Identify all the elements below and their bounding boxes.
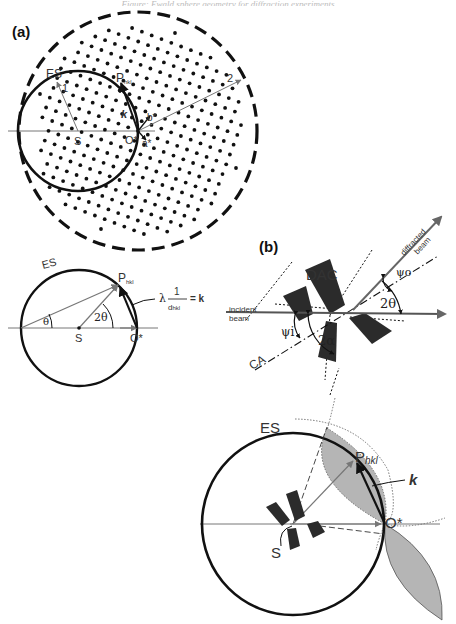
two-theta-label-b: 2θ [380, 296, 396, 311]
diffracted-beam-arrow [353, 217, 441, 310]
p-hkl-label-2: Phkl [118, 271, 134, 285]
ray-lower [320, 526, 384, 534]
s-label-c: S [271, 544, 281, 561]
panel-a-label: (a) [12, 23, 30, 40]
panel-c: ES Phkl k O* S [200, 398, 445, 620]
b-star-label: b* [147, 112, 157, 123]
s-label-2: S [75, 332, 82, 344]
theta-arc [49, 314, 52, 328]
theta-label: θ [43, 316, 49, 327]
psi-o-label: ψo [396, 266, 412, 279]
ewald-diagram: (a) 1 2 ES Phkl k S O* b* a* [0, 0, 456, 624]
es-label-c: ES [260, 419, 280, 436]
fraction-numerator: 1 [174, 286, 180, 297]
origin-label-c: O* [385, 514, 403, 531]
origin-label-2: O* [130, 332, 144, 344]
radius-1-label: 1 [62, 82, 68, 94]
ca-label: CA [247, 352, 268, 372]
p-hkl-label-c: Phkl [355, 448, 379, 466]
p-hkl-label: Phkl [116, 71, 132, 85]
psi-i-label: ψi [281, 325, 294, 339]
two-theta-label: 2θ [94, 311, 108, 324]
panel-b-label: (b) [259, 238, 278, 255]
two-alpha-label: 2α [318, 333, 335, 348]
k-pointer-line [132, 299, 155, 305]
panel-a-construction: ES Phkl θ 2θ S O* λ 1 dhkl = k [8, 256, 205, 386]
origin-label: O* [125, 134, 139, 146]
es-label: ES [46, 67, 62, 81]
es-label-2: ES [40, 256, 57, 271]
k-label-c: k [409, 471, 418, 488]
radius-2-arrow [138, 80, 241, 131]
s-label: S [74, 135, 81, 147]
fraction-denominator: dhkl [168, 303, 180, 312]
a-star-label: a* [142, 138, 152, 149]
radius-2-label: 2 [227, 72, 233, 84]
incident-label-line1: incident [229, 305, 257, 314]
panel-b: (b) DAC incident beam diffracted [226, 217, 445, 395]
incident-beam-arrow [226, 312, 445, 314]
cone-line-6 [330, 368, 339, 395]
diffracted-beam-label: diffracted beam [399, 227, 435, 263]
equals-k-label: = k [190, 293, 205, 304]
incident-label-line2: beam [229, 314, 249, 323]
k-label: k [121, 108, 128, 120]
panel-a: (a) 1 2 ES Phkl k S O* b* a* [8, 12, 257, 250]
dac-label: DAC [306, 266, 338, 283]
lambda-label: λ [159, 292, 166, 305]
accessible-region-lower [385, 524, 443, 620]
